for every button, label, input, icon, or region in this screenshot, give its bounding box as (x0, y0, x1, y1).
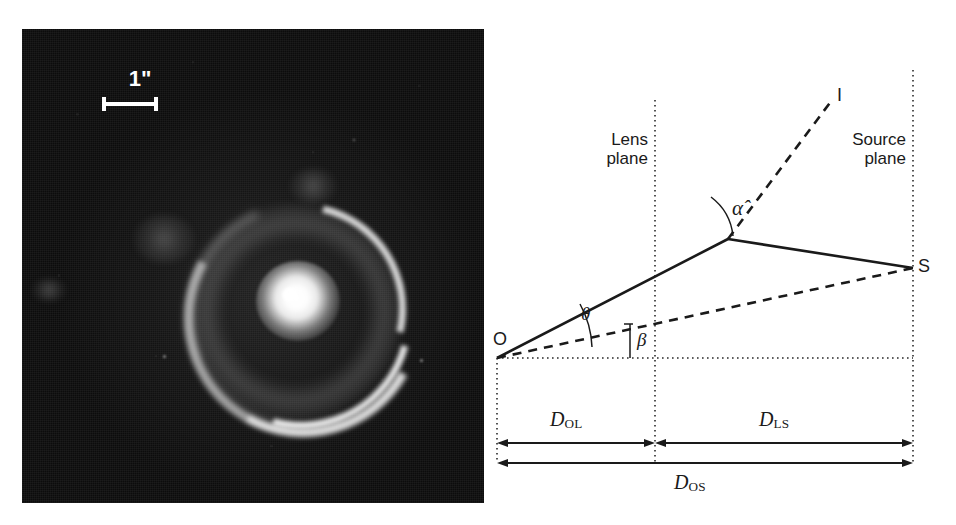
distance-subscript-ls: LS (773, 416, 789, 431)
distance-symbol-d: D (759, 408, 773, 430)
observer-point-label: O (493, 329, 507, 350)
scale-bar-label: 1" (102, 68, 178, 90)
deflection-angle-label: α̂ (732, 196, 743, 221)
lens-source-distance-label: DLS (759, 408, 789, 432)
image-speck (420, 359, 423, 362)
scale-bar-cap-right (154, 97, 158, 111)
deflected-light-ray (497, 239, 913, 358)
lensing-galaxy-nucleus (282, 287, 298, 302)
image-angle-label: θ (581, 303, 590, 325)
image-point-label: I (837, 85, 842, 106)
unlensed-direction-ray (497, 268, 913, 358)
figure-page: 1" (0, 0, 956, 525)
deflection-angle-arc (711, 197, 733, 236)
source-plane-label: Source plane (804, 130, 906, 168)
einstein-ring-photograph: 1" (22, 29, 484, 503)
source-angle-label: β (637, 329, 646, 351)
observer-lens-distance-label: DOL (550, 408, 582, 432)
lensing-galaxy-core (256, 261, 340, 341)
distance-symbol-d: D (550, 408, 564, 430)
einstein-ring-system (170, 187, 420, 437)
observer-source-distance-arrow (497, 459, 913, 467)
diagram-vector-layer (484, 0, 956, 525)
source-plane-label-line1: Source (804, 130, 906, 149)
caption-text (70, 512, 950, 525)
distance-subscript-ol: OL (564, 416, 582, 431)
image-direction-ray (728, 100, 832, 239)
scale-bar-line (104, 102, 156, 106)
image-speck (163, 355, 166, 358)
source-point-label: S (918, 256, 930, 277)
distance-symbol-d: D (674, 471, 688, 493)
scale-bar-icon (102, 97, 178, 111)
lens-geometry-diagram: Lens plane Source plane O I S α̂ θ β DOL… (484, 0, 956, 525)
image-speck (353, 139, 355, 141)
faint-object-left (32, 279, 66, 301)
source-plane-label-line2: plane (804, 149, 906, 168)
observer-source-distance-label: DOS (674, 471, 706, 495)
scale-bar: 1" (102, 68, 178, 111)
lens-source-distance-arrow (655, 439, 913, 447)
lens-plane-label: Lens plane (550, 130, 648, 168)
observer-lens-distance-arrow (497, 439, 655, 447)
lens-plane-label-line2: plane (550, 149, 648, 168)
lens-plane-label-line1: Lens (550, 130, 648, 149)
distance-subscript-os: OS (688, 479, 705, 494)
